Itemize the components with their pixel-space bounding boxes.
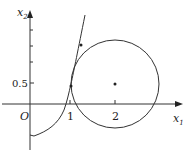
y-axis-label: x2 (17, 6, 28, 21)
origin-label: O (20, 110, 29, 123)
intersection-point (80, 44, 83, 47)
center-point (114, 83, 117, 86)
diagram-canvas: x2 x1 O 1 2 0.5 (0, 0, 194, 151)
y-tick-label-0.5: 0.5 (12, 78, 28, 89)
x-axis-label: x1 (173, 112, 184, 127)
x-tick-label-2: 2 (112, 110, 119, 123)
y-axis-arrow-icon (27, 10, 33, 18)
x-tick-label-1: 1 (67, 110, 74, 123)
curve (30, 15, 85, 136)
intersection-point (70, 85, 73, 88)
x-axis-arrow-icon (175, 101, 183, 107)
